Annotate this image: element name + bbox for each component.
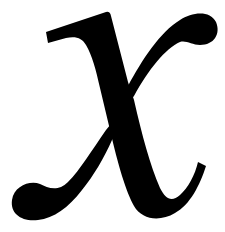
italic-x-icon <box>0 0 225 232</box>
